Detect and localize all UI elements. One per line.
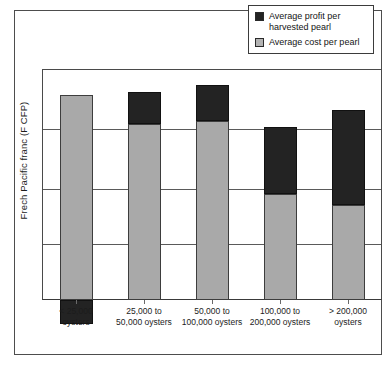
x-axis-tick	[76, 300, 77, 304]
bar-group	[332, 69, 365, 300]
x-axis-tick	[144, 300, 145, 304]
legend-label-profit-line2: harvested pearl	[269, 22, 331, 32]
x-axis-category-label: < 25,000oysters	[42, 306, 110, 327]
bar-segment-cost	[128, 124, 161, 300]
bar-group	[196, 69, 229, 300]
bar-group	[60, 69, 93, 300]
x-axis-category-line: 50,000 oysters	[116, 317, 172, 327]
bar-segment-cost	[332, 205, 365, 300]
x-axis-category-line: < 25,000	[59, 306, 92, 316]
x-axis-category-line: 200,000 oysters	[250, 317, 310, 327]
black-square-swatch	[255, 12, 264, 21]
y-axis-title: Frech Pacific franc (F CFP)	[18, 71, 29, 251]
x-axis-category-label: 25,000 to50,000 oysters	[110, 306, 178, 327]
x-axis-tick	[280, 300, 281, 304]
x-axis-category-line: oysters	[62, 317, 89, 327]
x-axis-category-label: 100,000 to200,000 oysters	[246, 306, 314, 327]
figure-bar-chart: Frech Pacific franc (F CFP) < 25,000oyst…	[0, 0, 392, 369]
x-axis-tick	[212, 300, 213, 304]
bar-segment-profit	[128, 92, 161, 124]
x-axis-category-line: 100,000 to	[260, 306, 300, 316]
x-axis-tick	[348, 300, 349, 304]
legend-label-profit: Average profit per harvested pearl	[269, 11, 340, 33]
x-axis: < 25,000oysters25,000 to50,000 oysters50…	[42, 300, 382, 355]
x-axis-category-line: oysters	[334, 317, 361, 327]
x-axis-category-line: 50,000 to	[194, 306, 229, 316]
legend-item-profit: Average profit per harvested pearl	[255, 11, 368, 33]
bar-segment-cost	[60, 95, 93, 300]
bar-segment-profit	[332, 110, 365, 206]
bar-segment-profit	[196, 85, 229, 121]
x-axis-category-line: > 200,000	[329, 306, 367, 316]
x-axis-category-label: > 200,000oysters	[314, 306, 382, 327]
bar-group	[128, 69, 161, 300]
bar-segment-profit	[264, 127, 297, 194]
x-axis-category-label: 50,000 to100,000 oysters	[178, 306, 246, 327]
bar-segment-cost	[264, 194, 297, 300]
chart-legend: Average profit per harvested pearl Avera…	[248, 5, 374, 54]
bar-series-layer	[42, 69, 382, 300]
legend-label-cost: Average cost per pearl	[269, 37, 359, 48]
bar-segment-cost	[196, 121, 229, 300]
legend-label-profit-line1: Average profit per	[269, 11, 340, 21]
gray-square-swatch	[255, 38, 264, 47]
legend-item-cost: Average cost per pearl	[255, 37, 368, 48]
x-axis-category-line: 100,000 oysters	[182, 317, 242, 327]
bar-group	[264, 69, 297, 300]
x-axis-category-line: 25,000 to	[126, 306, 161, 316]
